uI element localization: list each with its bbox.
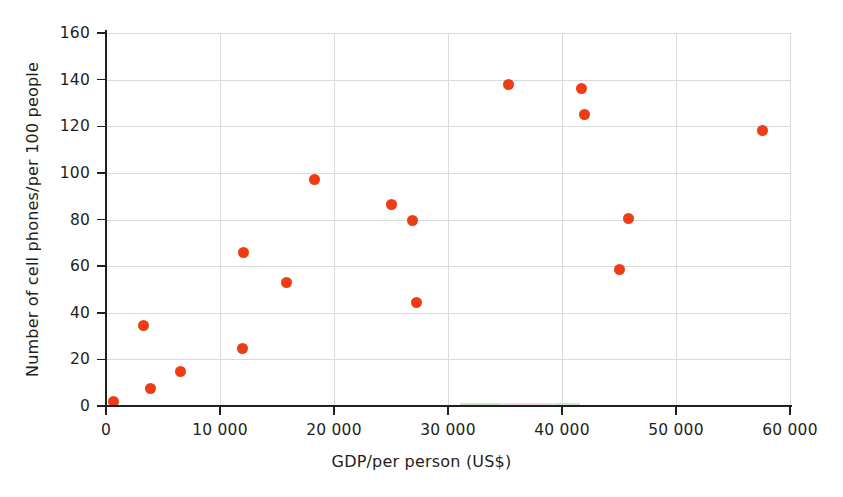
data-point: [281, 277, 292, 288]
data-point: [503, 79, 514, 90]
plot-area: [106, 33, 790, 406]
gridline-vertical: [334, 33, 335, 406]
y-axis-title: Number of cell phones/per 100 people: [23, 33, 49, 406]
y-axis-tick: [97, 172, 106, 174]
x-axis-tick-label: 30 000: [420, 421, 475, 439]
y-axis-tick: [97, 359, 106, 361]
x-axis-tick: [675, 406, 677, 415]
x-axis-tick-label: 20 000: [306, 421, 361, 439]
data-point: [576, 83, 587, 94]
baseline-color-fringe: [502, 403, 554, 405]
data-point: [386, 199, 397, 210]
gridline-vertical: [220, 33, 221, 406]
data-point: [238, 247, 249, 258]
data-point: [175, 366, 186, 377]
scatter-chart-figure: 020406080100120140160010 00020 00030 000…: [0, 0, 843, 497]
bottom-cropped-text-sliver: [0, 489, 843, 497]
baseline-color-fringe: [554, 403, 580, 405]
x-axis-tick-label: 0: [101, 421, 111, 439]
x-axis-tick: [333, 406, 335, 415]
x-axis-tick: [789, 406, 791, 415]
data-point: [309, 174, 320, 185]
x-axis-tick: [447, 406, 449, 415]
y-axis-tick: [97, 312, 106, 314]
data-point: [138, 320, 149, 331]
data-point: [623, 213, 634, 224]
gridline-vertical: [562, 33, 563, 406]
data-point: [237, 343, 248, 354]
x-axis-tick-label: 40 000: [534, 421, 589, 439]
data-point: [757, 125, 768, 136]
y-axis-tick: [97, 79, 106, 81]
x-axis-tick-label: 10 000: [192, 421, 247, 439]
y-axis-tick: [97, 219, 106, 221]
data-point: [145, 383, 156, 394]
data-point: [407, 215, 418, 226]
y-axis-tick: [97, 32, 106, 34]
gridline-vertical: [676, 33, 677, 406]
y-axis-tick: [97, 265, 106, 267]
x-axis-tick: [219, 406, 221, 415]
gridline-vertical: [448, 33, 449, 406]
x-axis-tick: [561, 406, 563, 415]
x-axis-title: GDP/per person (US$): [0, 452, 843, 471]
data-point: [579, 109, 590, 120]
data-point: [411, 297, 422, 308]
baseline-color-fringe: [460, 403, 502, 405]
x-axis-tick: [105, 406, 107, 415]
x-axis-tick-label: 60 000: [762, 421, 817, 439]
data-point: [614, 264, 625, 275]
gridline-vertical: [790, 33, 791, 406]
y-axis-tick: [97, 126, 106, 128]
x-axis-tick-label: 50 000: [648, 421, 703, 439]
